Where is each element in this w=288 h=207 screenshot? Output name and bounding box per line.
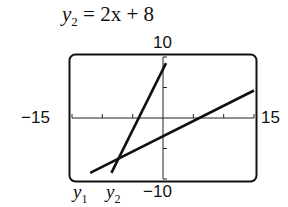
series-line-y1 — [90, 91, 254, 173]
plot-area — [0, 0, 288, 207]
